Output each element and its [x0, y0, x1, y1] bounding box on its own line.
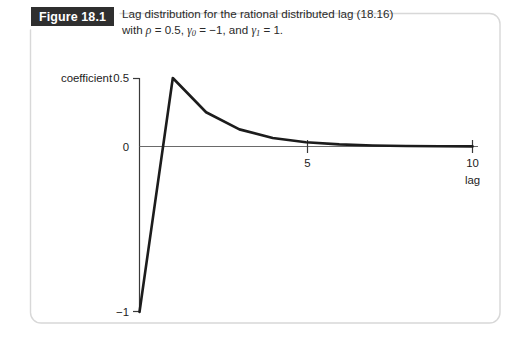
x-axis-caption: lag [465, 174, 480, 186]
figure-container: Figure 18.1 Lag distribution for the rat… [0, 0, 532, 342]
y-tick-label-zero: 0 [123, 141, 129, 153]
y-tick-label-bottom: −1 [116, 306, 129, 318]
x-tick-label-10: 10 [466, 157, 479, 169]
lag-distribution-plot: coefficient 0.5 0 −1 5 10 lag [0, 0, 532, 342]
x-tick-label-5: 5 [304, 157, 310, 169]
y-axis-caption: coefficient [61, 72, 113, 84]
y-tick-label-top: 0.5 [113, 72, 129, 84]
lag-distribution-curve [140, 78, 473, 312]
